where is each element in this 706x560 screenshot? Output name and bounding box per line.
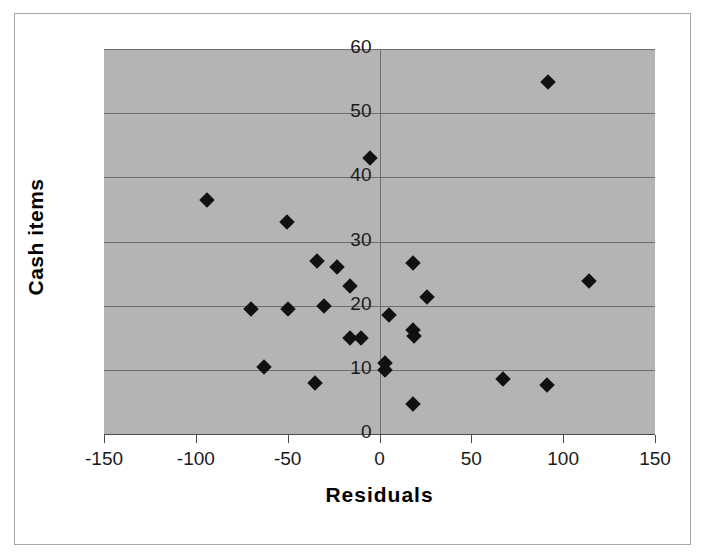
x-axis-tick	[288, 435, 289, 443]
y-axis-tick-label: 20	[324, 293, 372, 315]
y-axis-tick-label: 0	[324, 421, 372, 443]
x-axis-tick-label: 0	[335, 448, 425, 470]
data-point-marker	[243, 301, 259, 317]
data-point-marker	[353, 330, 369, 346]
x-axis-tick-label: 100	[518, 448, 608, 470]
x-axis-tick	[380, 435, 381, 443]
data-point-marker	[405, 256, 421, 272]
x-axis-tick	[471, 435, 472, 443]
y-axis-tick-label: 40	[324, 164, 372, 186]
scatter-plot-area	[104, 49, 655, 434]
y-axis-tick-label: 60	[324, 36, 372, 58]
data-point-marker	[381, 308, 397, 324]
x-axis-tick	[104, 435, 105, 443]
y-axis-tick-label: 10	[324, 357, 372, 379]
data-point-marker	[329, 259, 345, 275]
data-point-marker	[307, 375, 323, 391]
x-axis-tick-label: 50	[426, 448, 516, 470]
data-point-marker	[581, 274, 597, 290]
data-point-marker	[405, 396, 421, 412]
gridline-vertical-zero	[380, 49, 381, 434]
y-axis-title: Cash items	[24, 147, 48, 327]
data-point-marker	[280, 301, 296, 317]
data-point-marker	[279, 214, 295, 230]
data-point-marker	[539, 377, 555, 393]
data-point-marker	[495, 372, 511, 388]
data-point-marker	[199, 193, 215, 209]
x-axis-tick-label: -50	[243, 448, 333, 470]
y-axis-tick-label: 50	[324, 100, 372, 122]
x-axis-tick	[563, 435, 564, 443]
figure-container: -150-100-500501001500102030405060 Cash i…	[0, 0, 706, 560]
data-point-marker	[419, 290, 435, 306]
x-axis-title: Residuals	[104, 483, 655, 507]
y-axis-tick-label: 30	[324, 229, 372, 251]
x-axis-tick	[196, 435, 197, 443]
data-point-marker	[309, 253, 325, 269]
x-axis-tick-label: -100	[151, 448, 241, 470]
x-axis-tick	[655, 435, 656, 443]
data-point-marker	[541, 75, 557, 91]
x-axis-tick-label: 150	[610, 448, 700, 470]
x-axis-tick-label: -150	[59, 448, 149, 470]
data-point-marker	[256, 359, 272, 375]
